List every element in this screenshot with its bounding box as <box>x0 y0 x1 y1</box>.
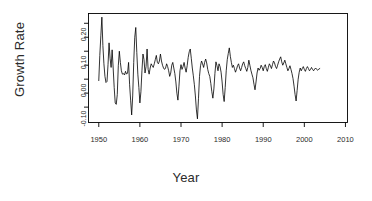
y-tick-label: 0.00 <box>79 78 86 104</box>
x-axis-title: Year <box>0 170 372 185</box>
x-tick-label: 1990 <box>246 135 280 144</box>
y-tick-label: 0.20 <box>79 22 86 48</box>
y-tick-label: -0.10 <box>79 106 86 132</box>
x-tick-label: 1960 <box>123 135 157 144</box>
x-tick-label: 2000 <box>287 135 321 144</box>
plot-frame <box>89 14 348 123</box>
x-tick-label: 1980 <box>205 135 239 144</box>
y-axis-title: Growth Rate <box>12 5 27 115</box>
x-tick-label: 2010 <box>328 135 362 144</box>
chart-figure: Growth Rate Year -0.100.000.100.20 19501… <box>0 0 372 201</box>
x-tick-label: 1950 <box>82 135 116 144</box>
x-tick-label: 1970 <box>164 135 198 144</box>
y-tick-label: 0.10 <box>79 50 86 76</box>
growth-rate-series-line <box>99 17 320 119</box>
